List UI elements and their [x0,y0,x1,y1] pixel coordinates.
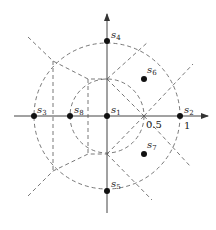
point-s5 [104,188,110,194]
boundary-lower-diag [107,154,152,200]
tick-label-one: 1 [184,120,190,131]
boundary-lower-left [28,154,107,196]
boundary-upper-diag [107,42,148,79]
point-s7 [141,151,147,157]
label-s2: s2 [184,104,194,117]
point-s1 [104,113,110,119]
point-s4 [104,38,110,44]
point-s6 [141,76,147,82]
decision-boundaries [28,37,193,200]
label-s8: s8 [74,104,84,117]
label-s7: s7 [147,139,157,152]
point-s8 [67,113,73,119]
label-s1: s1 [111,104,121,117]
boundary-upper-left [28,37,107,79]
label-s6: s6 [147,64,157,77]
point-s2 [177,113,183,119]
tick-label-half: 0.5 [146,119,162,130]
point-labels: s1 s2 s3 s4 s5 s6 s7 s8 [37,29,194,191]
label-s3: s3 [37,104,47,117]
constellation-diagram: s1 s2 s3 s4 s5 s6 s7 s8 0.5 1 [0,0,216,230]
label-s4: s4 [111,29,121,42]
